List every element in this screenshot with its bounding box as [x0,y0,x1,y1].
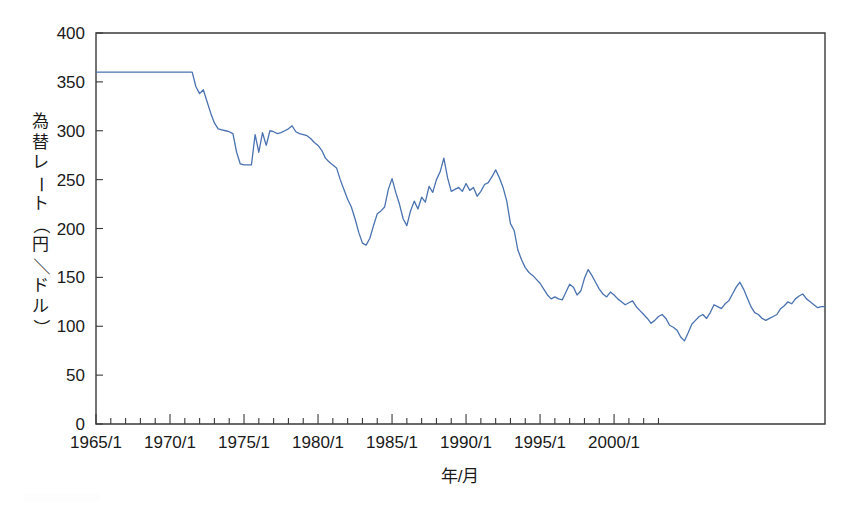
x-tick-label: 1985/1 [366,433,418,452]
y-axis-title-char: ー [27,174,53,195]
x-tick-label: 1995/1 [514,433,566,452]
y-axis-title: 為替レート（円／ドル） [27,112,53,338]
data-series-group [96,72,825,341]
y-tick-label: 300 [57,122,85,141]
x-tick-label: 1980/1 [292,433,344,452]
x-tick-label: 1990/1 [440,433,492,452]
y-axis-title-char: （ [27,215,53,236]
y-tick-label: 200 [57,220,85,239]
y-tick-label: 350 [57,73,85,92]
y-tick-label: 250 [57,171,85,190]
chart-canvas: 050100150200250300350400 1965/11970/1197… [0,0,850,509]
y-tick-label: 400 [57,24,85,43]
x-tick-label: 1965/1 [70,433,122,452]
x-axis-ticks: 1965/11970/11975/11980/11985/11990/11995… [70,414,658,452]
x-axis-title: 年/月 [441,467,480,486]
x-tick-label: 1975/1 [218,433,270,452]
y-axis-title-char: 為 [27,112,53,133]
exchange-rate-chart-figure: 為替レート（円／ドル） 050100150200250300350400 196… [0,0,850,509]
scan-artifact [24,494,100,501]
data-series-line [96,72,825,341]
y-tick-label: 150 [57,268,85,287]
y-axis-title-char: ） [27,317,53,338]
x-tick-label: 2000/1 [588,433,640,452]
x-tick-label: 1970/1 [144,433,196,452]
y-tick-label: 50 [66,366,85,385]
y-axis-title-char: ／ [27,256,53,277]
y-axis-title-char: 替 [27,133,53,154]
y-tick-label: 0 [76,415,85,434]
plot-frame [96,33,825,424]
plot-border [96,33,825,424]
y-tick-label: 100 [57,317,85,336]
